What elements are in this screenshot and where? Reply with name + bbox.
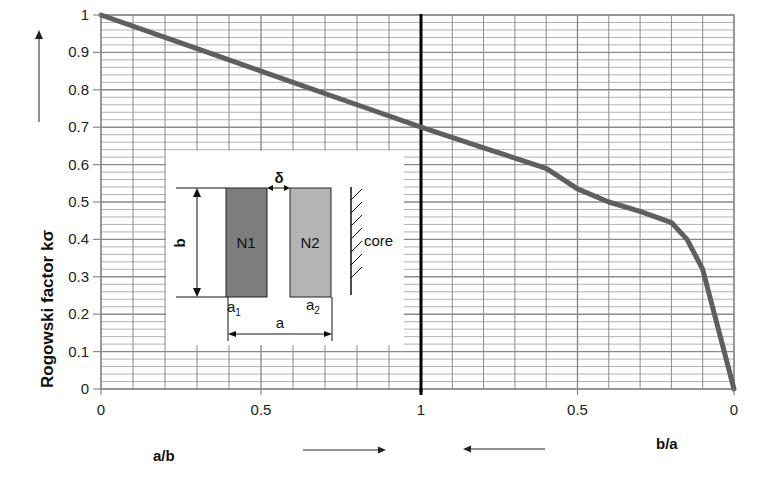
x-tick-label: 0.5 — [567, 401, 588, 418]
inset-n2-label: N2 — [300, 234, 319, 251]
x-axis-label-ab: a/b — [153, 447, 175, 464]
x-tick-label: 0 — [730, 401, 738, 418]
y-tick-label: 0.7 — [68, 118, 89, 135]
y-axis-ticks: 00.10.20.30.40.50.60.70.80.91 — [68, 6, 101, 397]
y-axis-arrow-icon — [35, 30, 43, 39]
x-tick-label: 1 — [417, 401, 425, 418]
x-axis-label-ba: b/a — [656, 435, 678, 452]
y-tick-label: 0.5 — [68, 193, 89, 210]
y-tick-label: 0.6 — [68, 156, 89, 173]
y-tick-label: 0 — [81, 380, 89, 397]
x-tick-label: 0.5 — [251, 401, 272, 418]
winding-inset: b N1 N2 δ core a1 a2 a — [166, 151, 404, 345]
y-tick-label: 0.2 — [68, 305, 89, 322]
x-tick-label: 0 — [97, 401, 105, 418]
ba-arrow-left-icon — [463, 446, 471, 453]
inset-n1-label: N1 — [236, 234, 255, 251]
inset-delta-label: δ — [274, 169, 283, 186]
rogowski-chart: b N1 N2 δ core a1 a2 a 00.10.20.30.40.50… — [0, 0, 766, 487]
y-axis-label: Rogowski factor kσ — [38, 230, 57, 388]
inset-b-label: b — [171, 238, 188, 247]
y-tick-label: 0.4 — [68, 230, 89, 247]
y-tick-label: 0.3 — [68, 268, 89, 285]
y-tick-label: 0.9 — [68, 43, 89, 60]
y-tick-label: 0.8 — [68, 81, 89, 98]
ab-arrow-right-icon — [378, 447, 386, 454]
inset-a-label: a — [276, 314, 285, 331]
x-axis-ticks: 00.510.50 — [97, 389, 738, 418]
y-tick-label: 0.1 — [68, 343, 89, 360]
y-tick-label: 1 — [81, 6, 89, 23]
inset-core-label: core — [364, 232, 393, 249]
